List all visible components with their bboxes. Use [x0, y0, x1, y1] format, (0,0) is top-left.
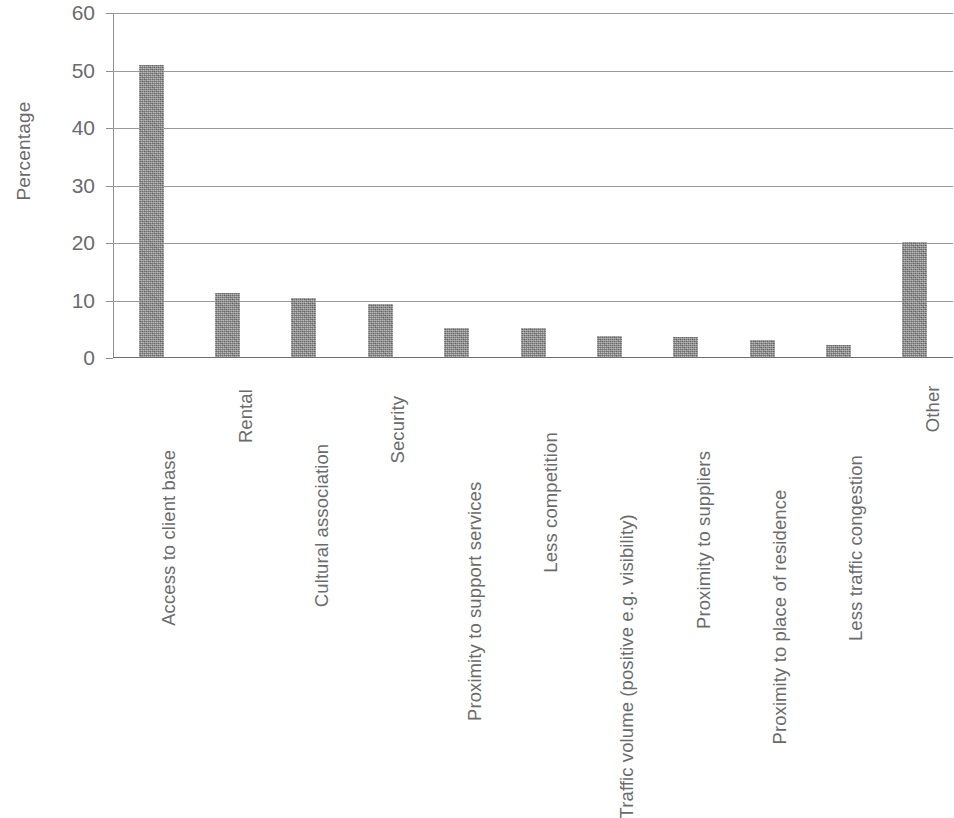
y-axis-tick-label: 30	[35, 175, 95, 196]
y-axis-tick-label: 40	[35, 117, 95, 138]
x-axis-label-text: Proximity to support services	[466, 482, 485, 721]
gridline	[113, 71, 953, 72]
x-axis-label-text: Security	[390, 396, 409, 464]
x-axis-category-label: Security	[380, 328, 399, 396]
x-axis-label-text: Proximity to place of residence	[771, 490, 790, 745]
x-axis-category-label: Proximity to suppliers	[686, 273, 705, 451]
x-axis-category-label: Other	[915, 339, 934, 386]
x-axis-category-label: Less competition	[533, 292, 552, 432]
gridline	[113, 13, 953, 14]
x-axis-label-text: Traffic volume (positive e.g. visibility…	[619, 514, 638, 818]
x-axis-label-text: Less traffic congestion	[848, 455, 867, 641]
x-axis-label-text: Proximity to suppliers	[695, 451, 714, 629]
x-axis-category-label: Proximity to support services	[457, 242, 476, 481]
y-axis-tick	[106, 71, 113, 72]
x-axis-label-text: Cultural association	[313, 444, 332, 607]
gridline	[113, 186, 953, 187]
y-axis-tick-label: 50	[35, 60, 95, 81]
x-axis-category-label: Cultural association	[304, 280, 323, 443]
y-axis-tick-label: 10	[35, 290, 95, 311]
x-axis-category-label: Less traffic congestion	[838, 269, 857, 455]
x-axis-category-label: Proximity to place of residence	[762, 234, 781, 489]
x-axis-label-text: Access to client base	[160, 450, 179, 626]
x-axis-label-text: Less competition	[542, 432, 561, 572]
y-axis-tick	[106, 301, 113, 302]
y-axis-tick-label: 60	[35, 2, 95, 23]
x-axis-label-text: Rental	[237, 389, 256, 443]
x-axis-category-label: Rental	[228, 335, 247, 389]
x-axis-label-text: Other	[924, 385, 943, 432]
y-axis-tick	[106, 358, 113, 359]
x-axis-category-label: Access to client base	[151, 274, 170, 450]
y-axis-title: Percentage	[13, 91, 35, 211]
y-axis-tick-label: 20	[35, 232, 95, 253]
x-axis-category-label: Traffic volume (positive e.g. visibility…	[609, 210, 628, 514]
y-axis-tick	[106, 128, 113, 129]
y-axis-tick	[106, 243, 113, 244]
y-axis-tick	[106, 13, 113, 14]
gridline	[113, 243, 953, 244]
y-axis-tick-label: 0	[35, 347, 95, 368]
gridline	[113, 128, 953, 129]
y-axis-tick	[106, 186, 113, 187]
